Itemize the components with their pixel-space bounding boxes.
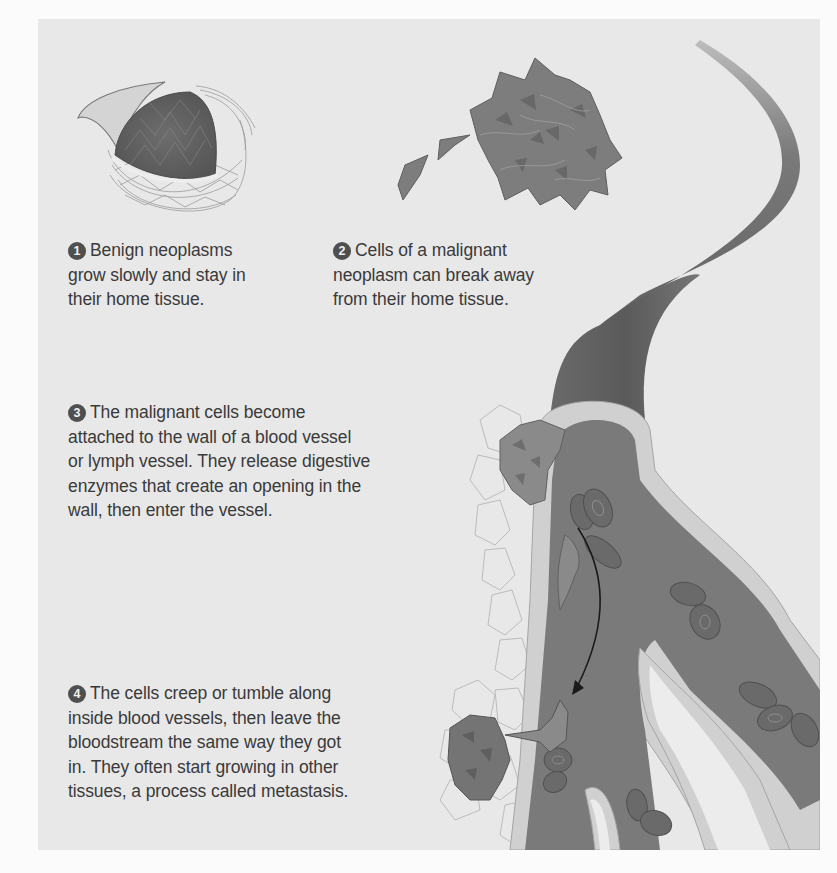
caption-3: 3The malignant cells become attached to … <box>68 400 370 523</box>
caption-4: 4The cells creep or tumble along inside … <box>68 681 348 804</box>
malignant-cell-cluster-icon <box>398 58 622 210</box>
caption-1: 1Benign neoplasms grow slowly and stay i… <box>68 238 246 312</box>
step-badge-1: 1 <box>68 242 86 260</box>
caption-2: 2Cells of a malignant neoplasm can break… <box>333 238 534 312</box>
benign-neoplasm-icon <box>78 82 255 211</box>
step-badge-3: 3 <box>68 404 86 422</box>
step-badge-4: 4 <box>68 685 86 703</box>
step-badge-2: 2 <box>333 242 351 260</box>
